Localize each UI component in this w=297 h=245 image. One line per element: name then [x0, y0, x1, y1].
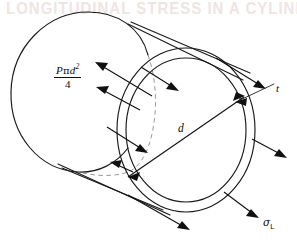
cylinder-body-lines	[58, 22, 250, 215]
stress-subscript: L	[270, 222, 274, 231]
end-cap-force-label: Pπd2 4	[54, 63, 81, 90]
upper-left-pressure-arrowhead	[95, 62, 108, 71]
near-end-inner-circle	[126, 58, 246, 202]
far-end-ellipse-hidden-arc	[78, 55, 155, 175]
diameter-dimension-line	[128, 97, 244, 177]
cylinder-bottom-tangent-line-inner	[62, 168, 163, 210]
pressure-arrows-group	[95, 62, 179, 172]
force-label-leader	[96, 86, 140, 110]
force-label-numerator: Pπd2	[54, 63, 81, 78]
diagram-canvas	[0, 0, 297, 245]
force-label-denominator: 4	[54, 78, 81, 90]
bottom-right-stress-arrow	[224, 192, 259, 218]
diameter-label: d	[178, 123, 184, 135]
cylinder-top-tangent-line-inner	[128, 24, 243, 80]
lower-left-pressure-arrow	[110, 160, 133, 172]
inner-top-pressure-arrow	[141, 67, 179, 91]
right-stress-arrowhead	[274, 149, 287, 158]
longitudinal-stress-label: σL	[263, 217, 274, 231]
near-end-outer-circle	[117, 48, 255, 212]
bottom-stress-arrow	[128, 195, 190, 230]
top-right-stress-arrowhead	[253, 80, 266, 89]
near-end-ring-group	[117, 48, 255, 212]
bottom-stress-arrowhead	[177, 221, 190, 230]
right-stress-arrow	[252, 139, 287, 158]
thickness-label: t	[276, 83, 279, 94]
diameter-dimension-group	[128, 92, 245, 181]
cylinder-top-tangent-line	[131, 22, 250, 73]
stress-arrows-group	[128, 58, 287, 230]
pressure-vessel-diagram: LONGITUDINAL STRESS IN A CYLINDER	[0, 0, 297, 245]
